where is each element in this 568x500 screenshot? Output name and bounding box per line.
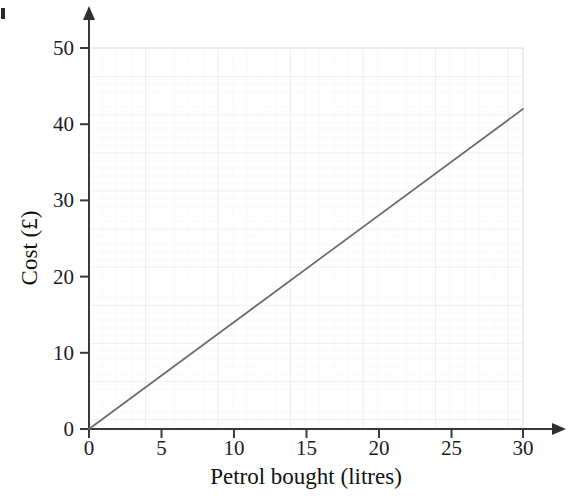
y-tick-label-20: 20: [53, 266, 74, 287]
y-tick-label-40: 40: [53, 114, 74, 135]
y-tick-label-30: 30: [53, 190, 74, 211]
y-tick-label-10: 10: [53, 342, 74, 363]
line-chart-plot: [0, 0, 568, 500]
x-tick-label-15: 15: [296, 438, 317, 459]
grid-area: [89, 48, 523, 429]
chart-figure: 0 5 10 15 20 25 30 0 10 20 30 40 50 Petr…: [0, 0, 568, 500]
x-axis-title: Petrol bought (litres): [210, 464, 402, 490]
x-tick-label-25: 25: [441, 438, 462, 459]
y-tick-label-0: 0: [64, 419, 75, 440]
x-tick-label-0: 0: [84, 438, 95, 459]
y-axis-ticks: [80, 48, 89, 429]
x-tick-label-10: 10: [224, 438, 245, 459]
x-tick-label-20: 20: [369, 438, 390, 459]
x-tick-label-5: 5: [156, 438, 167, 459]
y-axis-title: Cost (£): [17, 211, 43, 286]
y-tick-label-50: 50: [53, 38, 74, 59]
x-tick-label-30: 30: [513, 438, 534, 459]
